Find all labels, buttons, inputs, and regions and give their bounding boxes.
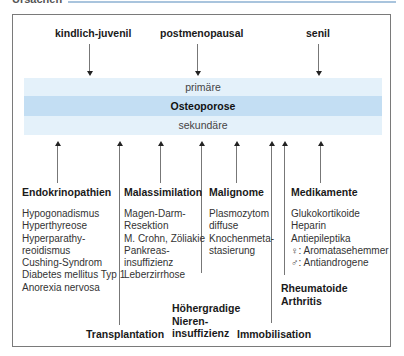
list-item: M. Crohn, Zöliakie — [124, 233, 205, 245]
heading-rule — [68, 1, 396, 3]
list-item: ♀: Aromatasehemmer — [291, 245, 389, 257]
list-item: diffuse — [209, 220, 274, 232]
band-primary: primäre — [24, 78, 382, 96]
list-item: Antiepileptika — [291, 233, 389, 245]
list-malassimilation: Magen-Darm- Resektion M. Crohn, Zöliakie… — [124, 208, 205, 282]
arrow-up-icon — [320, 145, 321, 183]
arrow-up-icon — [160, 145, 161, 183]
list-item: stasierung — [209, 245, 274, 257]
label-kindlich-juvenil: kindlich-juvenil — [55, 27, 131, 39]
label-immobilisation: Immobilisation — [237, 328, 311, 340]
label-line: Arthritis — [281, 295, 348, 308]
list-item: Diabetes mellitus Typ 1 — [22, 269, 125, 281]
list-item: Hyperthyreose — [22, 220, 125, 232]
category-malignome: Malignome — [209, 186, 264, 198]
category-malassimilation: Malassimilation — [124, 186, 202, 198]
arrow-down-icon — [197, 44, 198, 72]
list-item: Pankreas- — [124, 245, 205, 257]
label-transplantation: Transplantation — [86, 328, 164, 340]
list-malignome: Plasmozytom diffuse Knochenmeta- stasier… — [209, 208, 274, 257]
list-item: Hypogonadismus — [22, 208, 125, 220]
list-item: ♂: Antiandrogene — [291, 257, 389, 269]
label-rheumatoide-arthritis: Rheumatoide Arthritis — [281, 282, 348, 307]
list-item: Cushing-Syndrom — [22, 257, 125, 269]
list-endokrinopathien: Hypogonadismus Hyperthyreose Hyperparath… — [22, 208, 125, 294]
list-item: Glukokortikoide — [291, 208, 389, 220]
list-item: Magen-Darm- — [124, 208, 205, 220]
list-item: Plasmozytom — [209, 208, 274, 220]
list-medikamente: Glukokortikoide Heparin Antiepileptika ♀… — [291, 208, 389, 269]
label-line: Höhergradige — [172, 302, 240, 315]
band-secondary: sekundäre — [24, 116, 382, 135]
list-item: Knochenmeta- — [209, 233, 274, 245]
category-medikamente: Medikamente — [291, 186, 358, 198]
arrow-up-icon — [236, 145, 237, 183]
label-niereninsuffizienz: Höhergradige Nieren- insuffizienz — [172, 302, 240, 340]
arrow-up-icon — [57, 145, 58, 183]
list-item: Hyperparathy- — [22, 233, 125, 245]
arrow-down-icon — [89, 44, 90, 72]
list-item: reoidismus — [22, 245, 125, 257]
arrow-down-icon — [318, 44, 319, 72]
list-item: insuffizienz — [124, 257, 205, 269]
label-senil: senil — [306, 27, 330, 39]
arrow-up-icon — [284, 145, 285, 275]
category-endokrinopathien: Endokrinopathien — [22, 186, 111, 198]
section-heading: Ursachen — [12, 0, 62, 5]
band-osteoporose: Osteoporose — [24, 96, 382, 116]
label-line: Nieren- — [172, 315, 240, 328]
list-item: Leberzirrhose — [124, 269, 205, 281]
label-postmenopausal: postmenopausal — [160, 27, 243, 39]
label-line: Rheumatoide — [281, 282, 348, 295]
list-item: Anorexia nervosa — [22, 282, 125, 294]
label-line: insuffizienz — [172, 327, 240, 340]
list-item: Resektion — [124, 220, 205, 232]
list-item: Heparin — [291, 220, 389, 232]
